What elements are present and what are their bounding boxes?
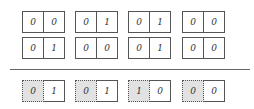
bit-cell: 1 <box>97 80 118 102</box>
bit-cell-shaded: 0 <box>75 80 97 102</box>
result-pair: 0 0 <box>182 80 225 102</box>
bit-pair: 0 1 <box>75 11 118 33</box>
bit-cell-shaded: 1 <box>128 80 150 102</box>
bit-cell: 0 <box>182 11 204 33</box>
bit-pair: 0 0 <box>22 11 65 33</box>
result-pair: 1 0 <box>128 80 171 102</box>
bit-cell: 0 <box>204 80 225 102</box>
bit-cell: 0 <box>204 11 225 33</box>
bit-cell: 1 <box>44 37 65 59</box>
bit-cell: 0 <box>22 11 44 33</box>
bit-cell: 0 <box>22 37 44 59</box>
bit-cell: 1 <box>97 11 118 33</box>
bit-cell: 0 <box>150 80 171 102</box>
sum-divider <box>10 69 250 70</box>
bit-cell: 0 <box>75 37 97 59</box>
bit-cell: 1 <box>44 80 65 102</box>
bit-pair: 0 1 <box>22 37 65 59</box>
bit-cell-shaded: 0 <box>22 80 44 102</box>
result-pair: 0 1 <box>22 80 65 102</box>
result-pair: 0 1 <box>75 80 118 102</box>
bit-cell: 0 <box>128 11 150 33</box>
bit-cell: 0 <box>75 11 97 33</box>
bit-cell: 0 <box>97 37 118 59</box>
bit-cell: 1 <box>150 37 171 59</box>
bit-cell: 0 <box>128 37 150 59</box>
bit-cell: 1 <box>150 11 171 33</box>
bit-pair: 0 0 <box>182 37 225 59</box>
bit-cell-shaded: 0 <box>182 80 204 102</box>
bit-pair: 0 1 <box>128 11 171 33</box>
bit-pair: 0 0 <box>182 11 225 33</box>
bit-cell: 0 <box>182 37 204 59</box>
bit-pair: 0 1 <box>128 37 171 59</box>
bit-pair: 0 0 <box>75 37 118 59</box>
bit-cell: 0 <box>44 11 65 33</box>
bit-cell: 0 <box>204 37 225 59</box>
